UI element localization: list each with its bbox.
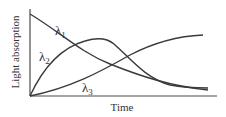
y-axis-title: Light absorption bbox=[9, 15, 21, 89]
label-lambda-1: λ1 bbox=[55, 23, 66, 40]
label-lambda-2: λ2 bbox=[39, 49, 50, 66]
chart-canvas: λ1 λ2 λ3 Time Light absorption bbox=[0, 0, 226, 117]
label-lambda-3: λ3 bbox=[82, 80, 93, 97]
x-axis-title: Time bbox=[111, 101, 134, 113]
